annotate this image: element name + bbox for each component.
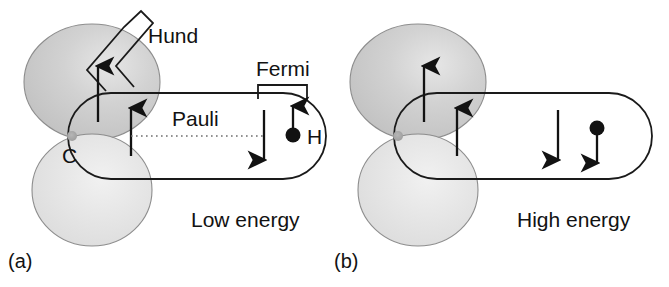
- hund-label: Hund: [148, 24, 198, 47]
- carbon-label-a: C: [62, 144, 77, 167]
- carbon-lower-lobe-b: [358, 134, 478, 246]
- fermi-label: Fermi: [256, 57, 310, 80]
- carbon-nucleus-b: [393, 131, 403, 141]
- energy-label-b: High energy: [517, 208, 631, 231]
- hydrogen-label-a: H: [307, 125, 322, 148]
- energy-label-a: Low energy: [191, 208, 300, 231]
- carbon-upper-lobe-b: [350, 24, 486, 140]
- hydrogen-nucleus-a: [286, 128, 301, 143]
- panel-a: Hund Pauli Fermi C H Low energy (a): [8, 11, 326, 272]
- carbon-upper-lobe-a: [24, 24, 160, 140]
- spin-configuration-diagram: Hund Pauli Fermi C H Low energy (a) High…: [0, 0, 669, 287]
- panel-label-b: (b): [334, 250, 358, 272]
- figure-container: Hund Pauli Fermi C H Low energy (a) High…: [0, 0, 669, 287]
- carbon-nucleus-a: [67, 131, 77, 141]
- carbon-lower-lobe-a: [32, 134, 152, 246]
- panel-b: High energy (b): [334, 24, 652, 272]
- pauli-label: Pauli: [172, 107, 219, 130]
- panel-label-a: (a): [8, 250, 32, 272]
- hydrogen-nucleus-b: [590, 121, 605, 136]
